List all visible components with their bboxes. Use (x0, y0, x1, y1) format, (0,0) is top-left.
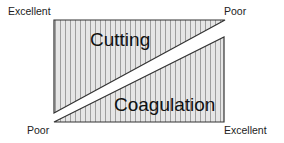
cutting-left-label: Excellent (8, 5, 51, 17)
tradeoff-diagram (0, 0, 284, 143)
cutting-right-label: Poor (224, 5, 246, 17)
coagulation-title: Coagulation (114, 94, 215, 116)
coagulation-left-label: Poor (27, 124, 49, 136)
coagulation-right-label: Excellent (224, 124, 267, 136)
cutting-title: Cutting (90, 29, 150, 51)
